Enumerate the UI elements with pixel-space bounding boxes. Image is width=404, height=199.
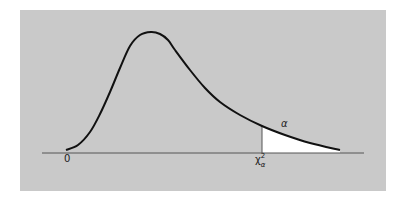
origin-label: 0 — [64, 153, 70, 164]
critical-value-label: χ2α — [255, 154, 269, 168]
critical-superscript: 2 — [261, 152, 265, 160]
tail-area-label: α — [281, 118, 288, 129]
density-curve — [66, 32, 340, 150]
chi-square-diagram — [0, 0, 404, 199]
critical-subscript: α — [261, 161, 266, 169]
